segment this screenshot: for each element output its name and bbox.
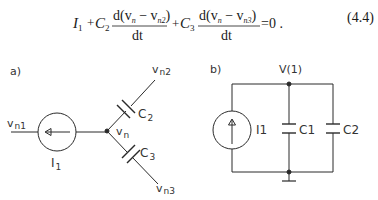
denominator-1: dt xyxy=(132,28,143,43)
term-C2: C2 xyxy=(95,15,110,33)
label-a: a) xyxy=(10,65,21,78)
numerator-2: d(vn − vn3) xyxy=(199,8,257,25)
label-vn3: vn3 xyxy=(156,182,175,196)
label-I1: I1 xyxy=(51,156,61,172)
plus-sign: + xyxy=(87,15,94,30)
plus-sign: + xyxy=(172,16,179,31)
wire-c2-upper xyxy=(131,80,155,106)
term-C3: C3 xyxy=(180,15,195,33)
label-I1: I1 xyxy=(256,123,267,137)
label-node-V1: V(1) xyxy=(279,63,302,76)
term-I1: I1 xyxy=(72,15,83,33)
figure-canvas: I1 + C2 d(vn − vn2) dt + C3 d(vn − vn3) … xyxy=(0,0,378,200)
equation-number: (4.4) xyxy=(347,10,374,26)
circuit-b: b) V(1) I1 C1 C2 xyxy=(210,63,359,181)
label-vn1: vn1 xyxy=(7,117,26,131)
label-b: b) xyxy=(210,63,221,76)
label-C1: C1 xyxy=(299,123,315,137)
label-C2: C2 xyxy=(138,107,153,123)
label-C2: C2 xyxy=(343,123,359,137)
numerator-1: d(vn − vn2) xyxy=(113,8,171,25)
label-vn: vn xyxy=(116,125,129,140)
circuit-a: a) vn1 vn2 vn3 vn I1 C2 C3 xyxy=(7,63,175,196)
equals-zero: =0 . xyxy=(261,16,283,31)
label-vn2: vn2 xyxy=(152,63,171,77)
denominator-2: dt xyxy=(221,28,232,43)
equation-4-4: I1 + C2 d(vn − vn2) dt + C3 d(vn − vn3) … xyxy=(72,8,374,43)
label-C3: C3 xyxy=(140,146,155,162)
